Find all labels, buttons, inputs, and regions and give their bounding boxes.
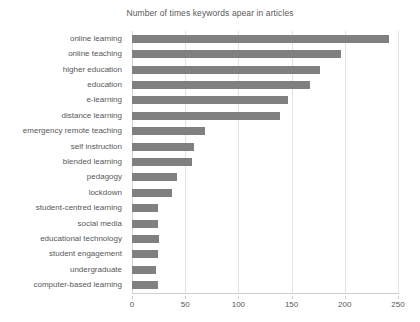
x-axis-ticks: 050100150200250 — [0, 296, 420, 316]
bar-row[interactable] — [132, 231, 398, 246]
bar-row[interactable] — [132, 93, 398, 108]
bar-row[interactable] — [132, 185, 398, 200]
y-axis-category-labels: online learningonline teachinghigher edu… — [0, 31, 128, 293]
y-axis-label: blended learning — [63, 157, 122, 167]
bar[interactable] — [132, 127, 205, 135]
x-tick-mark — [238, 296, 239, 299]
bar[interactable] — [132, 96, 288, 104]
bar[interactable] — [132, 158, 192, 166]
y-axis-label: e-learning — [86, 95, 122, 105]
x-tick-label: 250 — [391, 300, 404, 309]
bar[interactable] — [132, 50, 341, 58]
bar[interactable] — [132, 204, 158, 212]
x-tick-label: 100 — [232, 300, 245, 309]
chart-title: Number of times keywords apear in articl… — [0, 8, 420, 18]
y-axis-label: self instruction — [71, 142, 122, 152]
gridline-250 — [398, 31, 399, 293]
y-axis-label: emergency remote teaching — [23, 126, 122, 136]
y-axis-label: education — [87, 80, 122, 90]
x-tick-label: 200 — [338, 300, 351, 309]
bar[interactable] — [132, 235, 159, 243]
x-tick-mark — [132, 296, 133, 299]
bar[interactable] — [132, 220, 158, 228]
x-tick-mark — [345, 296, 346, 299]
y-axis-label: educational technology — [40, 234, 122, 244]
x-tick-mark — [398, 296, 399, 299]
x-tick-label: 0 — [130, 300, 134, 309]
y-axis-label: computer-based learning — [34, 280, 123, 290]
bar-row[interactable] — [132, 216, 398, 231]
bar-row[interactable] — [132, 201, 398, 216]
bar-row[interactable] — [132, 31, 398, 46]
bar-row[interactable] — [132, 108, 398, 123]
x-tick-label: 50 — [181, 300, 190, 309]
plot-area — [132, 31, 398, 293]
bar-row[interactable] — [132, 77, 398, 92]
bar[interactable] — [132, 35, 389, 43]
y-axis-label: social media — [78, 219, 122, 229]
y-axis-label: student-centred learning — [36, 203, 122, 213]
x-tick-mark — [292, 296, 293, 299]
y-axis-label: online learning — [70, 34, 122, 44]
bar[interactable] — [132, 112, 280, 120]
bar[interactable] — [132, 66, 320, 74]
bar[interactable] — [132, 143, 194, 151]
bar-row[interactable] — [132, 262, 398, 277]
x-tick-mark — [185, 296, 186, 299]
y-axis-label: lockdown — [89, 188, 122, 198]
bar[interactable] — [132, 189, 172, 197]
bar-row[interactable] — [132, 123, 398, 138]
bar-row[interactable] — [132, 139, 398, 154]
x-axis-line — [132, 293, 399, 294]
bar-chart: Number of times keywords apear in articl… — [0, 0, 420, 322]
x-tick-label: 150 — [285, 300, 298, 309]
bar-row[interactable] — [132, 62, 398, 77]
bar[interactable] — [132, 250, 158, 258]
bar[interactable] — [132, 281, 158, 289]
bar[interactable] — [132, 266, 156, 274]
bar-row[interactable] — [132, 170, 398, 185]
bar-row[interactable] — [132, 46, 398, 61]
bar-row[interactable] — [132, 154, 398, 169]
y-axis-label: higher education — [63, 65, 122, 75]
y-axis-label: online teaching — [68, 49, 122, 59]
bar[interactable] — [132, 173, 177, 181]
bars-layer — [132, 31, 398, 293]
y-axis-label: student engagement — [49, 249, 122, 259]
y-axis-label: pedagogy — [87, 172, 122, 182]
bar[interactable] — [132, 81, 310, 89]
bar-row[interactable] — [132, 278, 398, 293]
y-axis-label: undergraduate — [70, 265, 122, 275]
bar-row[interactable] — [132, 247, 398, 262]
y-axis-label: distance learning — [62, 111, 122, 121]
